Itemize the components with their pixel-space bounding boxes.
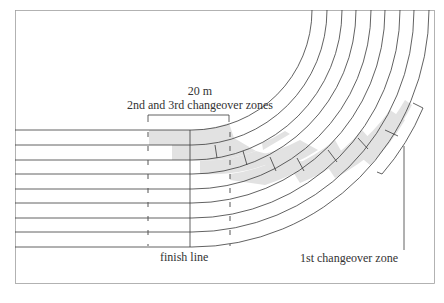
zones-2-3-label: 2nd and 3rd changeover zones [100, 98, 300, 113]
distance-label: 20 m [170, 84, 230, 99]
lane-line [15, 10, 414, 232]
lane-line [15, 10, 327, 145]
zone-1-label: 1st changeover zone [300, 251, 398, 266]
distance-bracket [148, 115, 229, 122]
finish-line-label: finish line [160, 250, 208, 265]
lane-line [15, 10, 400, 218]
